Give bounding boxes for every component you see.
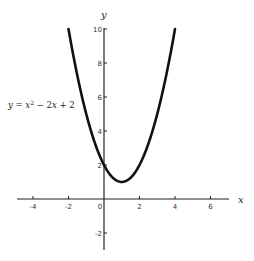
parabola-curve: [69, 29, 176, 182]
x-tick-label: 2: [137, 203, 141, 211]
x-tick-label: -2: [65, 203, 72, 211]
equation-label: y = x2 − 2x + 2: [7, 99, 75, 111]
x-tick-label: 4: [173, 203, 178, 211]
x-axis-title: x: [238, 194, 244, 205]
y-tick-label: 10: [93, 26, 102, 34]
parabola-chart: -4-20246-2246810 x y y = x2 − 2x + 2: [0, 0, 254, 261]
y-tick-label: 6: [98, 94, 103, 102]
x-tick-label: 0: [98, 203, 102, 211]
y-tick-label: 8: [98, 60, 102, 68]
x-tick-label: 6: [208, 203, 213, 211]
y-axis-title: y: [100, 9, 107, 20]
y-tick-label: 2: [98, 162, 102, 170]
axes: [17, 28, 229, 250]
y-tick-label: 4: [98, 128, 103, 136]
ticks: -4-20246-2246810: [30, 26, 214, 238]
y-tick-label: -2: [95, 230, 102, 238]
x-tick-label: -4: [30, 203, 38, 211]
